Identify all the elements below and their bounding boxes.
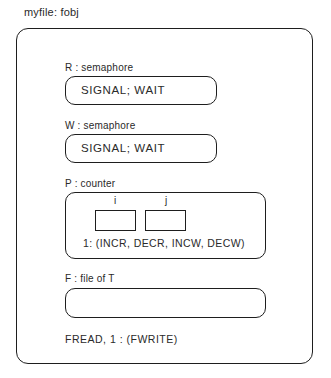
field-i-box	[95, 210, 136, 231]
file-operations: FREAD, 1 : (FWRITE)	[65, 333, 178, 345]
field-j-box	[145, 210, 186, 231]
w-semaphore-label: W : semaphore	[65, 120, 135, 131]
r-semaphore-ops: SIGNAL; WAIT	[81, 84, 165, 96]
r-semaphore-label: R : semaphore	[65, 62, 133, 73]
r-semaphore-box: SIGNAL; WAIT	[65, 76, 217, 105]
field-j-label: j	[165, 195, 167, 206]
w-semaphore-box: SIGNAL; WAIT	[65, 134, 217, 163]
p-counter-label: P : counter	[65, 178, 115, 189]
object-title: myfile: fobj	[24, 6, 79, 18]
f-file-label: F : file of T	[65, 273, 115, 284]
w-semaphore-ops: SIGNAL; WAIT	[81, 142, 165, 154]
field-i-label: i	[114, 195, 116, 206]
p-counter-box: i j 1: (INCR, DECR, INCW, DECW)	[65, 192, 266, 259]
p-counter-ops: 1: (INCR, DECR, INCW, DECW)	[83, 237, 245, 249]
f-file-box	[65, 288, 266, 318]
